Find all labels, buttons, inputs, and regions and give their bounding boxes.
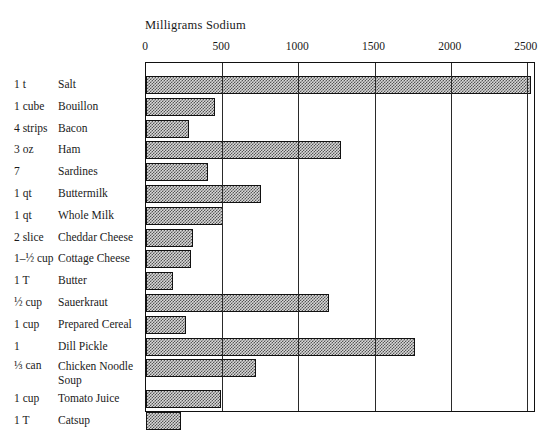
x-tick-label-500: 500	[213, 40, 230, 52]
row-quantity: ⅓ can	[0, 358, 58, 371]
row-food-name: Buttermilk	[58, 186, 143, 200]
gridline-1500	[375, 63, 376, 411]
row-quantity: ½ cup	[0, 296, 58, 308]
bar-butter	[146, 272, 173, 290]
x-tick-label-1000: 1000	[286, 40, 309, 52]
row-label: 2 sliceCheddar Cheese	[0, 228, 143, 246]
bar-whole-milk	[146, 207, 223, 225]
bar-tomato-juice	[146, 390, 221, 408]
row-food-name: Chicken Noodle Soup	[58, 358, 143, 387]
sodium-bar-chart: Milligrams Sodium 05001000150020002500 1…	[0, 0, 553, 433]
bar-bouillon	[146, 98, 215, 116]
bar-buttermilk	[146, 185, 261, 203]
row-label: 1 TButter	[0, 271, 143, 289]
row-quantity: 1 T	[0, 414, 58, 426]
row-quantity: 1 t	[0, 78, 58, 90]
bars-layer	[146, 63, 534, 411]
row-quantity: 1	[0, 340, 58, 352]
row-quantity: 1 cup	[0, 392, 58, 404]
row-label: 3 ozHam	[0, 140, 143, 158]
bar-salt	[146, 76, 531, 94]
row-food-name: Catsup	[58, 413, 143, 427]
row-quantity: 1–½ cup	[0, 252, 58, 264]
row-food-name: Sardines	[58, 164, 143, 178]
row-quantity: 7	[0, 165, 58, 177]
bar-sauerkraut	[146, 294, 329, 312]
gridline-500	[222, 63, 223, 411]
gridline-2500	[527, 63, 528, 411]
row-food-name: Bouillon	[58, 99, 143, 113]
bar-prepared-cereal	[146, 316, 186, 334]
row-label: ⅓ canChicken Noodle Soup	[0, 358, 143, 388]
row-label: 1–½ cupCottage Cheese	[0, 249, 143, 267]
x-tick-label-1500: 1500	[362, 40, 385, 52]
row-food-name: Cheddar Cheese	[58, 230, 143, 244]
bar-cottage-cheese	[146, 250, 191, 268]
row-quantity: 1 qt	[0, 209, 58, 221]
plot-area	[145, 62, 535, 412]
row-label: 1Dill Pickle	[0, 337, 143, 355]
row-label: 4 stripsBacon	[0, 119, 143, 137]
row-label: ½ cupSauerkraut	[0, 293, 143, 311]
row-label-column: 1 tSalt1 cubeBouillon4 stripsBacon3 ozHa…	[0, 62, 145, 412]
row-food-name: Dill Pickle	[58, 339, 143, 353]
bar-ham	[146, 141, 341, 159]
row-food-name: Bacon	[58, 121, 143, 135]
row-label: 1 cubeBouillon	[0, 97, 143, 115]
row-label: 7Sardines	[0, 162, 143, 180]
x-tick-label-2000: 2000	[438, 40, 461, 52]
gridline-1000	[298, 63, 299, 411]
row-quantity: 1 T	[0, 274, 58, 286]
row-label: 1 tSalt	[0, 75, 143, 93]
bar-sardines	[146, 163, 208, 181]
row-food-name: Ham	[58, 142, 143, 156]
gridline-2000	[451, 63, 452, 411]
bar-bacon	[146, 120, 189, 138]
row-food-name: Cottage Cheese	[58, 251, 143, 265]
row-food-name: Whole Milk	[58, 208, 143, 222]
x-tick-label-0: 0	[142, 40, 148, 52]
row-food-name: Butter	[58, 273, 143, 287]
x-axis-tick-labels: 05001000150020002500	[0, 40, 553, 56]
row-food-name: Salt	[58, 77, 143, 91]
row-food-name: Tomato Juice	[58, 391, 143, 405]
row-food-name: Sauerkraut	[58, 295, 143, 309]
row-label: 1 cupTomato Juice	[0, 389, 143, 407]
bar-cheddar-cheese	[146, 229, 193, 247]
row-quantity: 3 oz	[0, 143, 58, 155]
row-label: 1 qtWhole Milk	[0, 206, 143, 224]
bar-chicken-noodle-soup	[146, 359, 256, 377]
bar-catsup	[146, 412, 181, 430]
row-quantity: 1 cup	[0, 318, 58, 330]
x-tick-label-2500: 2500	[514, 40, 537, 52]
row-quantity: 1 qt	[0, 187, 58, 199]
row-quantity: 2 slice	[0, 231, 58, 243]
row-food-name: Prepared Cereal	[58, 317, 143, 331]
row-label: 1 TCatsup	[0, 411, 143, 429]
row-label: 1 cupPrepared Cereal	[0, 315, 143, 333]
row-quantity: 4 strips	[0, 122, 58, 134]
row-quantity: 1 cube	[0, 100, 58, 112]
chart-title: Milligrams Sodium	[145, 18, 246, 33]
row-label: 1 qtButtermilk	[0, 184, 143, 202]
